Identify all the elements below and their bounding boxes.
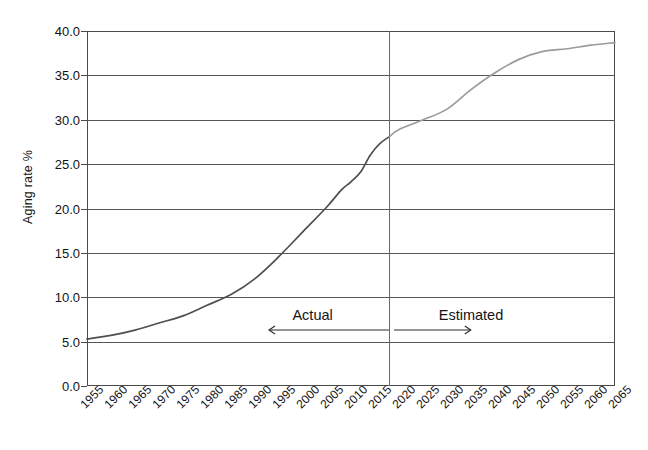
x-tick-label: 2035 xyxy=(462,383,491,412)
y-tick-label: 15.0 xyxy=(34,245,80,260)
x-tick-label: 2005 xyxy=(318,383,347,412)
x-tick-label: 2020 xyxy=(390,383,419,412)
y-tick-label: 40.0 xyxy=(34,24,80,39)
y-tick-label: 0.0 xyxy=(34,379,80,394)
plot-area: ActualEstimated xyxy=(87,31,615,386)
x-tick-label: 2000 xyxy=(294,383,323,412)
x-tick-label: 1960 xyxy=(102,383,131,412)
x-tick-label: 1965 xyxy=(126,383,155,412)
x-tick-label: 1995 xyxy=(270,383,299,412)
x-axis-tick-labels: 1955196019651970197519801985199019952000… xyxy=(87,386,615,450)
x-tick-label: 2050 xyxy=(534,383,563,412)
x-tick-label: 1975 xyxy=(174,383,203,412)
x-tick-label: 2045 xyxy=(510,383,539,412)
x-tick-label: 1985 xyxy=(222,383,251,412)
series-line-estimated xyxy=(389,43,615,137)
x-tick-label: 1980 xyxy=(198,383,227,412)
x-tick-label: 2055 xyxy=(558,383,587,412)
actual-label: Actual xyxy=(292,307,332,323)
x-tick-label: 2060 xyxy=(582,383,611,412)
x-tick-label: 1990 xyxy=(246,383,275,412)
y-tick-label: 25.0 xyxy=(34,157,80,172)
x-tick-label: 2010 xyxy=(342,383,371,412)
series-line-actual xyxy=(87,137,389,339)
y-axis-tick-labels: 40.035.030.025.020.015.010.05.00.0 xyxy=(24,0,80,450)
y-tick-label: 30.0 xyxy=(34,112,80,127)
x-tick-label: 2025 xyxy=(414,383,443,412)
aging-rate-chart: Aging rate % 40.035.030.025.020.015.010.… xyxy=(0,0,648,450)
y-tick-label: 35.0 xyxy=(34,68,80,83)
x-tick-label: 2030 xyxy=(438,383,467,412)
x-tick-label: 2015 xyxy=(366,383,395,412)
actual-arrow xyxy=(263,324,395,336)
estimated-label: Estimated xyxy=(439,307,503,323)
x-tick-label: 1970 xyxy=(150,383,179,412)
y-tick-label: 10.0 xyxy=(34,290,80,305)
y-tick-label: 20.0 xyxy=(34,201,80,216)
x-tick-label: 2040 xyxy=(486,383,515,412)
x-tick-label: 2065 xyxy=(606,383,635,412)
estimated-arrow xyxy=(388,324,477,336)
y-tick-label: 5.0 xyxy=(34,334,80,349)
